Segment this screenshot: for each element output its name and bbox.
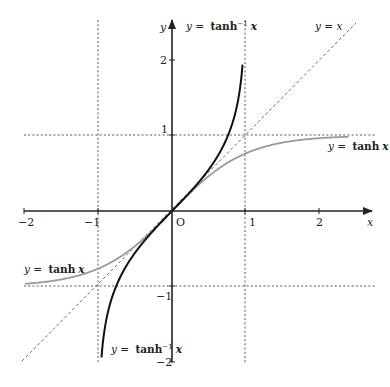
tick-label-x-neg2: −2 — [18, 216, 34, 229]
tick-label-x-neg1: −1 — [84, 216, 100, 229]
label-tanh-right: y = tanhx — [327, 140, 389, 152]
label-y-equals-x: y = x — [314, 20, 342, 32]
tick-label-y-neg2: −2 — [156, 356, 172, 369]
plot-area: −2 −1 1 2 2 1 −1 −2 O x y y = tanh−1x y … — [0, 0, 390, 387]
tick-label-x-1: 1 — [249, 216, 256, 229]
label-tanh-left: y = tanhx — [23, 263, 85, 275]
asymptotes — [24, 20, 376, 364]
label-atanh-top: y = tanh−1x — [185, 20, 258, 32]
origin-label: O — [176, 216, 185, 229]
x-axis-label: x — [367, 216, 374, 229]
axes — [24, 20, 372, 362]
tick-label-y-neg1: −1 — [156, 290, 172, 303]
y-axis-label: y — [159, 21, 167, 34]
tick-label-x-2: 2 — [316, 216, 323, 229]
tick-label-y-1: 1 — [161, 123, 168, 136]
tick-label-y-2: 2 — [160, 54, 167, 67]
